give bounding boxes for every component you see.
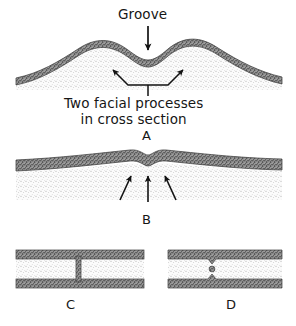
- panel-label-b: B: [142, 212, 151, 227]
- facial-processes-caption: Two facial processesin cross section: [64, 96, 203, 128]
- caption-line-2: in cross section: [81, 111, 187, 127]
- panel-c-epithelial-seam: [76, 256, 81, 282]
- figure-container: Groove Two facial processesin cross sect…: [0, 0, 296, 326]
- panel-label-a: A: [142, 128, 151, 143]
- panel-c-illustration: [16, 250, 144, 288]
- panel-b-illustration: [16, 150, 282, 202]
- anatomy-diagram-svg: [0, 0, 296, 326]
- panel-a-illustration: [16, 26, 282, 96]
- panel-d-epithelial-remnant: [209, 266, 215, 272]
- caption-line-1: Two facial processes: [64, 95, 203, 111]
- panel-d-illustration: [168, 250, 282, 288]
- groove-label: Groove: [118, 7, 167, 23]
- panel-label-d: D: [226, 297, 236, 312]
- panel-d-mesenchyme: [168, 258, 282, 280]
- panel-label-c: C: [66, 297, 75, 312]
